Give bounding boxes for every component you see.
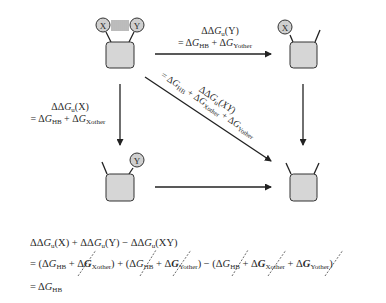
svg-text:X: X [282, 23, 289, 33]
residue-y-label: Y [134, 21, 141, 31]
label-top-arrow: ΔΔGu(Y) = ΔGHB + ΔGYother [178, 25, 253, 50]
thermodynamic-cycle-diagram: X Y X Y ΔΔGu(Y) = ΔGHB + ΔGYother ΔΔGu(X… [0, 0, 386, 303]
equation-line-3: = ΔGHB [30, 281, 62, 294]
state-y-only: Y [102, 153, 144, 201]
label-left-arrow: ΔΔGu(X) = ΔGHB + ΔGXother [31, 101, 106, 126]
label-diagonal-arrow: ΔΔGu(XY) = ΔGHB + ΔGXother + ΔGYother [159, 61, 264, 140]
residue-x-label: X [100, 21, 107, 31]
equation-block: ΔΔGu(X) + ΔΔGu(Y) − ΔΔGu(XY) = (ΔGHB + Δ… [30, 237, 343, 294]
state-double-mutant [286, 163, 319, 201]
state-native: X Y [96, 18, 144, 68]
svg-text:= ΔGHB + ΔGXother + ΔGYother: = ΔGHB + ΔGXother + ΔGYother [159, 70, 258, 141]
equation-line-1: ΔΔGu(X) + ΔΔGu(Y) − ΔΔGu(XY) [30, 237, 178, 250]
svg-text:Y: Y [134, 156, 141, 166]
hydrogen-bond-hatch [112, 20, 128, 31]
equation-line-2: = (ΔGHB + ΔGXother) + (ΔGHB + ΔGYother) … [30, 258, 333, 271]
svg-text:= ΔGHB + ΔGXother: = ΔGHB + ΔGXother [31, 113, 106, 126]
svg-text:= ΔGHB + ΔGYother: = ΔGHB + ΔGYother [178, 37, 253, 50]
state-x-only: X [278, 20, 320, 68]
